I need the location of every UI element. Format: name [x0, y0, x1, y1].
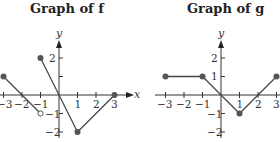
svg-text:−2: −2: [176, 98, 191, 110]
g-point-closed: [237, 111, 243, 117]
f-point-open: [38, 111, 43, 116]
svg-text:−3: −3: [0, 98, 12, 110]
g-y-label: y: [217, 27, 225, 40]
graph-f: x y −3−2−1 123 2−1−2: [0, 27, 141, 138]
svg-text:2: 2: [255, 98, 262, 110]
g-point-closed: [274, 74, 280, 80]
g-point-closed: [163, 74, 169, 80]
svg-text:2: 2: [93, 98, 100, 110]
f-point-closed: [75, 129, 81, 135]
g-point-closed: [200, 74, 206, 80]
svg-text:1: 1: [75, 98, 82, 110]
svg-text:3: 3: [273, 98, 280, 110]
svg-text:−2: −2: [45, 126, 60, 138]
graphs-canvas: x y −3−2−1 123 2−1−2: [0, 0, 280, 142]
svg-text:−2: −2: [207, 126, 222, 138]
f-point-closed: [38, 55, 44, 61]
svg-text:−1: −1: [45, 108, 60, 120]
svg-text:−1: −1: [207, 108, 222, 120]
f-x-label: x: [134, 88, 141, 101]
svg-text:3: 3: [111, 98, 118, 110]
graph-g: y −3−2−1 123 21 −1−2: [155, 27, 280, 138]
svg-text:1: 1: [237, 98, 244, 110]
f-y-label: y: [55, 27, 63, 40]
svg-text:2: 2: [49, 52, 56, 64]
svg-text:2: 2: [211, 52, 218, 64]
f-point-closed: [112, 92, 118, 98]
svg-text:1: 1: [211, 70, 218, 82]
svg-text:−3: −3: [157, 98, 172, 110]
f-point-closed: [1, 74, 7, 80]
